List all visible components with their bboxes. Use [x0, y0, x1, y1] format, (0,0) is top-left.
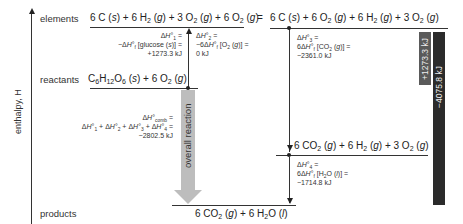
axis-label: enthalpy, H — [13, 89, 23, 134]
intermediate-equation: 6 CO2 (g) + 6 H2 (g) + 3 O2 (g) — [294, 140, 429, 151]
dh1-arrowhead-icon — [186, 28, 192, 34]
comb-annotation: ΔH°comb = ΔH°1 + ΔH°2 + ΔH°3 + ΔH°4 = −2… — [82, 113, 173, 140]
enthalpy-up-bar: +1273.3 kJ — [419, 32, 431, 85]
axis-arrow-icon — [29, 8, 35, 14]
dh3-arrowhead-icon — [287, 145, 293, 151]
elements-right-node — [287, 26, 291, 30]
level-label-reactants: reactants — [40, 74, 79, 85]
enthalpy-axis — [31, 14, 32, 224]
overall-reaction-label: overall reaction — [182, 104, 193, 168]
elements-level-line-left — [90, 27, 244, 28]
products-equation: 6 CO2 (g) + 6 H2O (l) — [195, 208, 288, 219]
intermediate-level-line — [276, 155, 428, 156]
dh1-arrow-line — [188, 32, 189, 88]
level-label-products: products — [40, 208, 76, 219]
level-label-elements: elements — [40, 13, 79, 24]
elements-right-equation: 6 C (s) + 6 O2 (g) + 6 H2 (g) + 3 O2 (g) — [270, 12, 439, 23]
reactants-level-line — [90, 88, 198, 89]
overall-arrowhead-icon — [174, 190, 202, 204]
elements-level-line-right — [270, 28, 448, 29]
equals-sign: = — [257, 12, 263, 23]
dh3-arrow-line — [289, 28, 290, 152]
enthalpy-down-bar: −4075.8 kJ — [433, 32, 445, 205]
dh4-annotation: ΔH°4 = 6ΔH°f [H2O (l)] = −1714.8 kJ — [297, 160, 348, 187]
dh3-annotation: ΔH°3 = 6ΔH°f [CO2 (g)] = −2361.0 kJ — [297, 33, 350, 60]
dh1-annotation: ΔH°1 = −ΔH°f [glucose (s)] = +1273.3 kJ — [118, 31, 182, 58]
dh2-annotation: ΔH°2 = −6ΔH°f [O2 (g)] = 0 kJ — [196, 31, 248, 58]
reactants-equation: C6H12O6 (s) + 6 O2 (g) — [88, 73, 187, 84]
products-level-line — [172, 205, 296, 206]
dh4-arrow-line — [289, 157, 290, 203]
dh4-arrowhead-icon — [287, 198, 293, 204]
elements-left-equation: 6 C (s) + 6 H2 (g) + 3 O2 (g) + 6 O2 (g) — [90, 12, 259, 23]
